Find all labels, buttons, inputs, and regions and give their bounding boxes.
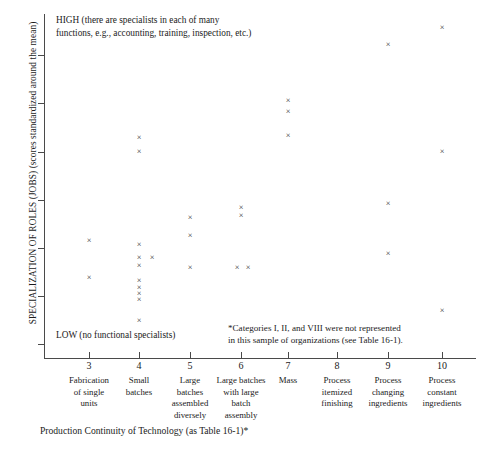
- x-axis-category-line: with large: [212, 387, 270, 399]
- x-axis-tick: [388, 352, 389, 358]
- x-axis-tick-label: 8: [317, 360, 357, 371]
- y-axis-tick: [38, 200, 44, 201]
- x-axis-category-line: itemized: [308, 387, 366, 399]
- y-axis-tick: [38, 248, 44, 249]
- data-point: ×: [440, 307, 445, 315]
- x-axis-tick: [442, 352, 443, 358]
- x-axis-tick: [337, 352, 338, 358]
- x-axis-category-line: diversely: [161, 410, 219, 422]
- y-axis-tick: [38, 296, 44, 297]
- data-point: ×: [150, 254, 155, 262]
- x-axis-category-label: Largebatchesassembleddiversely: [161, 375, 219, 421]
- data-point: ×: [137, 317, 142, 325]
- data-point: ×: [239, 212, 244, 220]
- y-axis-tick: [38, 103, 44, 104]
- data-point: ×: [286, 132, 291, 140]
- data-point: ×: [188, 264, 193, 272]
- x-axis-tick-label: 9: [368, 360, 408, 371]
- x-axis-category-line: units: [60, 398, 118, 410]
- x-axis-category-line: changing: [359, 387, 417, 399]
- x-axis-category-line: Small: [110, 375, 168, 387]
- x-axis-tick-label: 5: [170, 360, 210, 371]
- x-axis-category-line: ingredients: [359, 398, 417, 410]
- x-axis-tick-label: 4: [119, 360, 159, 371]
- x-axis-tick: [288, 352, 289, 358]
- data-point: ×: [137, 262, 142, 270]
- x-axis-category-label: Processconstantingredients: [413, 375, 471, 410]
- figure-scatter-specialization: SPECIALIZATION OF ROLES (JOBS) (scores s…: [0, 0, 485, 456]
- data-point: ×: [286, 108, 291, 116]
- data-point: ×: [137, 134, 142, 142]
- x-axis-category-label: Processitemizedfinishing: [308, 375, 366, 410]
- x-axis-tick: [190, 352, 191, 358]
- x-axis-category-line: ingredients: [413, 398, 471, 410]
- data-point: ×: [87, 237, 92, 245]
- data-point: ×: [386, 41, 391, 49]
- x-axis-category-label: Smallbatches: [110, 375, 168, 398]
- data-point: ×: [235, 264, 240, 272]
- data-point: ×: [87, 274, 92, 282]
- x-axis-category-line: batches: [110, 387, 168, 399]
- x-axis-category-line: finishing: [308, 398, 366, 410]
- x-axis-category-line: constant: [413, 387, 471, 399]
- data-point: ×: [386, 250, 391, 258]
- x-axis-category-line: Process: [359, 375, 417, 387]
- data-point: ×: [440, 148, 445, 156]
- data-point: ×: [386, 200, 391, 208]
- x-axis-tick-label: 10: [422, 360, 462, 371]
- y-axis-tick: [38, 152, 44, 153]
- x-axis-tick-label: 7: [268, 360, 308, 371]
- x-axis-category-line: Large: [161, 375, 219, 387]
- x-axis-tick-label: 6: [221, 360, 261, 371]
- y-axis-tick: [38, 55, 44, 56]
- data-point: ×: [246, 264, 251, 272]
- x-axis-category-line: assembly: [212, 410, 270, 422]
- x-axis-category-line: assembled: [161, 398, 219, 410]
- data-point: ×: [286, 97, 291, 105]
- data-point: ×: [137, 241, 142, 249]
- x-axis-category-line: batch: [212, 398, 270, 410]
- data-point: ×: [440, 24, 445, 32]
- x-axis-tick: [89, 352, 90, 358]
- x-axis-category-line: Process: [308, 375, 366, 387]
- data-point: ×: [137, 296, 142, 304]
- x-axis-tick: [241, 352, 242, 358]
- x-axis-category-line: Process: [413, 375, 471, 387]
- data-point: ×: [188, 214, 193, 222]
- x-axis-tick-label: 3: [69, 360, 109, 371]
- data-point: ×: [137, 148, 142, 156]
- x-axis-category-line: batches: [161, 387, 219, 399]
- y-axis-tick: [38, 344, 44, 345]
- x-axis-tick: [139, 352, 140, 358]
- x-axis-category-label: Processchangingingredients: [359, 375, 417, 410]
- data-point: ×: [188, 232, 193, 240]
